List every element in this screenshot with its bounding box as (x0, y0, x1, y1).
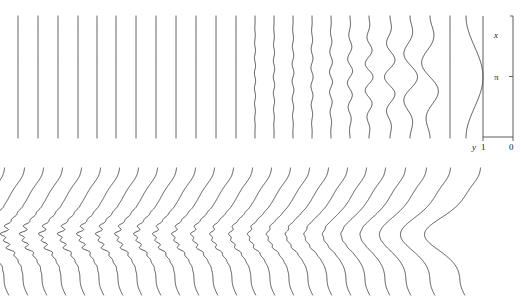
bottom-panel-plot (0, 158, 521, 301)
bottom-panel-profile (285, 168, 328, 295)
scientific-figure: x π y 1 0 (0, 0, 521, 301)
top-panel-curve-group (18, 16, 483, 138)
bottom-panel-profile (322, 168, 366, 295)
axis-label-x: x (493, 30, 498, 40)
axis-tick-label-zero: 0 (509, 142, 514, 152)
bottom-panel-profile (38, 168, 81, 295)
axis-label-y: y (471, 142, 476, 152)
top-panel-curve (385, 16, 395, 138)
bottom-panel-profile (0, 168, 43, 295)
bottom-panel-profile (360, 168, 406, 295)
bottom-panel-profile (57, 168, 100, 295)
bottom-panel-profile (266, 168, 309, 295)
axis-tick-label-pi: π (494, 72, 499, 82)
bottom-panel-profile (76, 168, 119, 295)
axis-group: x π y 1 0 (471, 16, 514, 152)
top-panel-curve (273, 16, 274, 138)
bottom-panel-profile (115, 168, 158, 295)
top-panel-curve (254, 16, 255, 138)
top-panel-curve (422, 16, 439, 138)
top-panel-curve (365, 16, 373, 138)
bottom-panel-curve-group (0, 168, 481, 295)
top-panel-curve (347, 16, 352, 138)
top-panel-curve (330, 16, 333, 138)
bottom-panel-profile (304, 168, 348, 295)
axis-tick-label-one: 1 (481, 142, 486, 152)
bottom-panel-profile (19, 168, 62, 295)
bottom-panel-profile (95, 168, 138, 295)
bottom-panel-profile (341, 168, 386, 295)
bottom-panel-profile (247, 168, 290, 295)
top-panel-curve (404, 16, 418, 138)
bottom-panel (0, 158, 521, 301)
top-panel-curve (292, 16, 294, 138)
top-panel-curve (311, 16, 313, 138)
bottom-panel-profile (379, 168, 426, 295)
bottom-panel-profile (424, 168, 480, 295)
top-panel-plot: x π y 1 0 (0, 0, 521, 160)
top-panel: x π y 1 0 (0, 0, 521, 160)
top-panel-curve (466, 16, 483, 138)
